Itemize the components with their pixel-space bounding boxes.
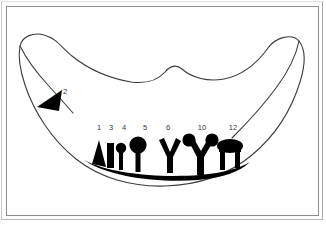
callout-label-2: 2 bbox=[63, 87, 67, 96]
glyph-label-12: 12 bbox=[229, 123, 237, 132]
figure-drawing: 2 1 3 4 5 6 10 12 bbox=[0, 0, 326, 225]
glyph-3-bar bbox=[107, 143, 114, 168]
glyph-label-4: 4 bbox=[122, 123, 126, 132]
glyph-label-3: 3 bbox=[109, 123, 113, 132]
figure-screenshot: 2 1 3 4 5 6 10 12 bbox=[0, 0, 326, 225]
outline-path bbox=[19, 34, 304, 186]
glyph-label-5: 5 bbox=[143, 123, 147, 132]
glyph-label-1: 1 bbox=[97, 123, 101, 132]
glyph-label-10: 10 bbox=[198, 123, 206, 132]
glyph-label-6: 6 bbox=[166, 123, 170, 132]
